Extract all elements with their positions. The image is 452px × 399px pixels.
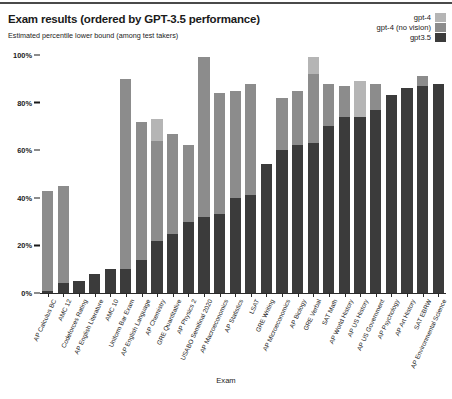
bar: [105, 269, 116, 293]
bar-segment-gpt35: [73, 281, 84, 293]
bar-segment-gpt4-no-vision: [230, 91, 241, 198]
bar-segment-gpt4-no-vision: [151, 141, 162, 241]
y-axis-tick-label: 0%: [21, 289, 32, 298]
y-axis-tick-label: 20%: [17, 241, 32, 250]
bar: [120, 79, 131, 293]
bar-segment-gpt4-no-vision: [276, 98, 287, 150]
y-axis-tick: 60%: [17, 146, 40, 155]
bar-segment-gpt4-no-vision: [167, 134, 178, 234]
bar-segment-gpt35: [261, 164, 272, 293]
bar-segment-gpt35: [386, 95, 397, 293]
x-axis-tick: [235, 293, 236, 297]
bar: [276, 98, 287, 293]
bar: [308, 57, 319, 293]
bar: [136, 122, 147, 293]
x-axis-tick: [157, 293, 158, 297]
bar-segment-gpt35: [417, 86, 428, 293]
bar: [214, 93, 225, 293]
x-axis-tick: [142, 293, 143, 297]
legend-label: gpt-4: [414, 14, 431, 22]
x-axis-tick: [63, 293, 64, 297]
y-axis-tick: 40%: [17, 193, 40, 202]
bar: [183, 145, 194, 293]
legend-swatch: [435, 23, 446, 32]
legend-label: gpt-4 (no vision): [377, 24, 431, 32]
legend-label: gpt3.5: [410, 34, 431, 42]
x-axis-tick: [329, 293, 330, 297]
bar-segment-gpt4-no-vision: [42, 191, 53, 291]
header-divider: [0, 2, 452, 4]
bar: [245, 84, 256, 293]
x-axis-tick: [48, 293, 49, 297]
bar-segment-gpt4-no-vision: [183, 145, 194, 221]
x-axis-tick: [298, 293, 299, 297]
x-axis-tick: [220, 293, 221, 297]
bar-segment-gpt4: [151, 119, 162, 140]
bar-segment-gpt35: [89, 274, 100, 293]
bar-segment-gpt4-no-vision: [308, 74, 319, 143]
y-axis-tick: 20%: [17, 241, 40, 250]
bar-segment-gpt4-no-vision: [120, 79, 131, 269]
x-axis-tick: [313, 293, 314, 297]
bar-segment-gpt4-no-vision: [339, 86, 350, 117]
bar-segment-gpt4-no-vision: [198, 57, 209, 216]
bar-segment-gpt4-no-vision: [370, 84, 381, 110]
bar: [354, 81, 365, 293]
x-axis-tick: [126, 293, 127, 297]
bar: [401, 88, 412, 293]
bar: [73, 281, 84, 293]
bar: [198, 57, 209, 293]
bar-segment-gpt4-no-vision: [417, 76, 428, 86]
bar: [292, 91, 303, 293]
bar-segment-gpt35: [245, 195, 256, 293]
bar-segment-gpt35: [354, 117, 365, 293]
x-axis-tick: [188, 293, 189, 297]
x-axis-tick: [266, 293, 267, 297]
bar-segment-gpt35: [120, 269, 131, 293]
y-axis-tick-label: 100%: [13, 51, 32, 60]
chart-legend: gpt-4gpt-4 (no vision)gpt3.5: [377, 13, 446, 42]
y-axis-tick: 100%: [13, 51, 40, 60]
bar-segment-gpt35: [308, 143, 319, 293]
bar-segment-gpt4-no-vision: [136, 122, 147, 260]
bar-segment-gpt4-no-vision: [58, 186, 69, 284]
legend-swatch: [435, 13, 446, 22]
x-axis-tick: [251, 293, 252, 297]
bar: [339, 86, 350, 293]
chart-title: Exam results (ordered by GPT-3.5 perform…: [8, 13, 260, 25]
legend-swatch: [435, 33, 446, 42]
bar: [58, 186, 69, 293]
exam-results-chart-figure: Exam results (ordered by GPT-3.5 perform…: [0, 0, 452, 399]
bar: [151, 119, 162, 293]
bar: [386, 95, 397, 293]
bar-segment-gpt35: [433, 84, 444, 293]
bar-segment-gpt35: [105, 269, 116, 293]
bar-segment-gpt35: [136, 260, 147, 293]
x-axis-ticks: [40, 293, 446, 297]
bar: [433, 84, 444, 293]
y-axis-tick-label: 40%: [17, 193, 32, 202]
x-axis-tick: [438, 293, 439, 297]
bar-segment-gpt4: [308, 57, 319, 74]
x-axis-tick: [423, 293, 424, 297]
bar-segment-gpt35: [183, 222, 194, 293]
bar-segment-gpt35: [339, 117, 350, 293]
y-axis-tick: 0%: [21, 289, 40, 298]
legend-item: gpt-4 (no vision): [377, 23, 446, 32]
legend-item: gpt-4: [414, 13, 446, 22]
x-axis-tick: [282, 293, 283, 297]
bar-segment-gpt35: [198, 217, 209, 293]
bar-segment-gpt4-no-vision: [214, 93, 225, 214]
legend-item: gpt3.5: [410, 33, 446, 42]
y-axis-tick-label: 60%: [17, 146, 32, 155]
x-axis-tick: [173, 293, 174, 297]
bar-segment-gpt4-no-vision: [323, 84, 334, 127]
x-axis-tick: [110, 293, 111, 297]
bar: [167, 134, 178, 293]
plot-area: [40, 55, 446, 293]
x-axis-tick: [345, 293, 346, 297]
bar-segment-gpt35: [276, 150, 287, 293]
x-axis-label: LSAT: [247, 298, 260, 315]
x-axis-tick: [376, 293, 377, 297]
bar: [417, 76, 428, 293]
